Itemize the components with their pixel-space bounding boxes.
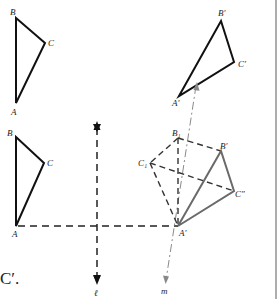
label-b1: B₁ [172,128,181,138]
label-c1: C₁ [138,158,147,168]
label-c-double-prime: C″ [235,189,245,199]
label-l: ℓ [94,288,98,298]
dashed-b1-to-bprime [178,138,221,151]
label-m: m [161,286,168,296]
label-a-prime: A′ [171,98,180,108]
triangle-abc-construction [16,137,44,226]
line-m [166,86,196,280]
line-l-arrow-down-icon [94,276,101,285]
dashed-c1-to-cdoubleprime [150,163,234,191]
diagram-svg: B C A B′ C′ A′ B C A ℓ m B₁ C₁ [0,0,277,299]
triangle-aprime-bprime-cdoubleprime [178,151,234,226]
line-l-arrow-up-icon [94,121,101,130]
reflection-diagram: B C A B′ C′ A′ B C A ℓ m B₁ C₁ [0,0,277,299]
label-a-lower: A [11,229,18,239]
label-c-lower: C [47,158,54,168]
label-a-prime-construction: A′ [178,228,187,238]
dashed-c1-to-aprime [150,163,178,226]
label-b-prime-construction: B′ [220,141,228,151]
label-c-prime: C′ [238,59,247,69]
label-b: B [10,7,16,17]
line-m-arrow-down-icon [163,276,169,284]
triangle-abc-original [16,18,45,103]
triangle-abc-image [179,21,234,96]
dashed-b1-to-c1 [150,138,178,163]
label-c: C [48,38,55,48]
label-a: A [10,107,17,117]
caption-fragment: C′. [0,269,19,288]
label-b-lower: B [7,128,13,138]
label-b-prime: B′ [218,8,226,18]
